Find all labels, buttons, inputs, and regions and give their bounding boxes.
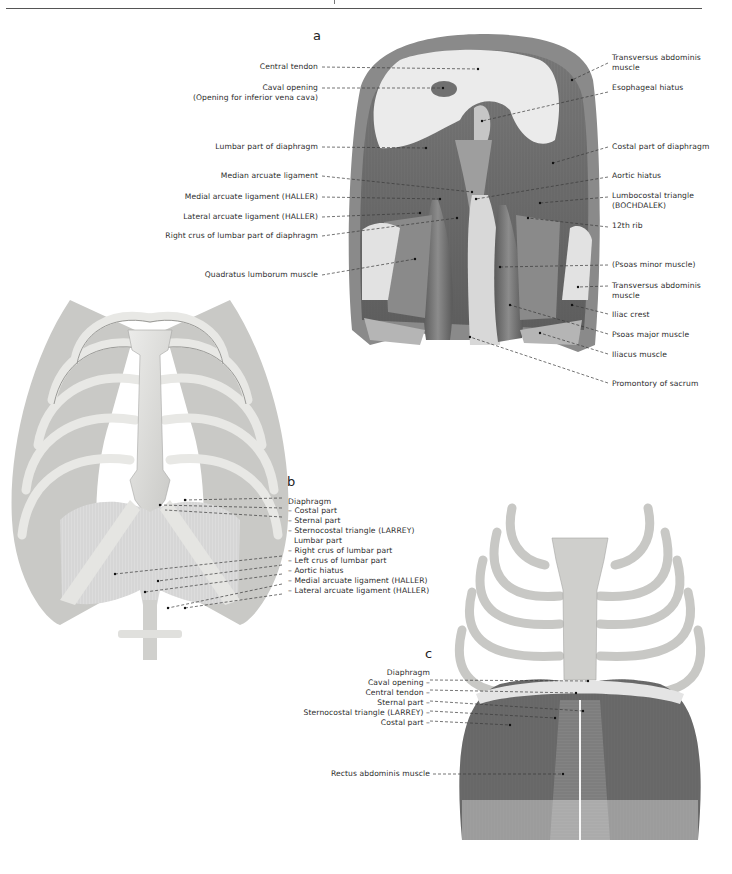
anatomy-illustrations (0, 0, 732, 874)
label-psoas-minor: (Psoas minor muscle) (612, 260, 696, 270)
label-central-tendon: Central tendon (260, 62, 318, 72)
figure-b-art (12, 300, 289, 660)
figure-b-aortic-hiatus: – Aortic hiatus (288, 566, 344, 576)
figure-c-caval-opening: Caval opening – (368, 678, 430, 688)
label-lumbocostal-triangle: Lumbocostal triangle (612, 191, 694, 201)
label-transversus-abdominis-top: Transversus abdominis (612, 53, 701, 63)
label-12th-rib: 12th rib (612, 221, 643, 231)
figure-c-rectus-abdominis: Rectus abdominis muscle (331, 769, 430, 779)
figure-b-sternocostal-triangle: – Sternocostal triangle (LARREY) (288, 526, 414, 536)
figure-c-sternocostal-triangle: Sternocostal triangle (LARREY) – (304, 708, 430, 718)
label-aortic-hiatus: Aortic hiatus (612, 171, 661, 181)
figure-a-letter: a (313, 28, 321, 43)
label-medial-arcuate-ligament: Medial arcuate ligament (HALLER) (185, 192, 318, 202)
label-caval-opening: Caval opening (262, 83, 318, 93)
label-costal-part: Costal part of diaphragm (612, 142, 709, 152)
figure-b-left-crus: – Left crus of lumbar part (288, 556, 387, 566)
label-lumbocostal-triangle-sub: (BOCHDALEK) (612, 201, 666, 211)
label-esophageal-hiatus: Esophageal hiatus (612, 83, 683, 93)
label-transversus-abdominis-bottom: Transversus abdominis (612, 281, 701, 291)
label-transversus-abdominis-bottom-2: muscle (612, 291, 640, 301)
figure-c-sternal-part: Sternal part – (377, 698, 430, 708)
label-transversus-abdominis-top-2: muscle (612, 63, 640, 73)
label-caval-opening-sub: (Opening for inferior vena cava) (193, 93, 318, 103)
figure-b-medial-arcuate-ligament: – Medial arcuate ligament (HALLER) (288, 576, 428, 586)
figure-b-sternal-part: – Sternal part (288, 516, 341, 526)
label-right-crus: Right crus of lumbar part of diaphragm (165, 231, 318, 241)
figure-c-art (459, 508, 700, 842)
figure-b-right-crus: – Right crus of lumbar part (288, 546, 392, 556)
label-iliacus: Iliacus muscle (612, 350, 667, 360)
figure-b-lateral-arcuate-ligament: – Lateral arcuate ligament (HALLER) (288, 586, 429, 596)
figure-b-lumbar-part: Lumbar part (294, 536, 342, 546)
label-quadratus-lumborum: Quadratus lumborum muscle (205, 270, 318, 280)
label-iliac-crest: Iliac crest (612, 310, 650, 320)
figure-b-costal-part: – Costal part (288, 506, 337, 516)
figure-c-letter: c (425, 646, 432, 661)
label-psoas-major: Psoas major muscle (612, 330, 689, 340)
figure-c-heading: Diaphragm (387, 668, 430, 678)
figure-b-letter: b (287, 474, 295, 489)
label-lumbar-part: Lumbar part of diaphragm (215, 142, 318, 152)
figure-a-art (349, 34, 600, 352)
label-promontory-of-sacrum: Promontory of sacrum (612, 379, 698, 389)
figure-c-costal-part: Costal part – (381, 718, 430, 728)
label-median-arcuate-ligament: Median arcuate ligament (221, 171, 318, 181)
figure-c-central-tendon: Central tendon – (365, 688, 430, 698)
label-lateral-arcuate-ligament: Lateral arcuate ligament (HALLER) (183, 212, 318, 222)
